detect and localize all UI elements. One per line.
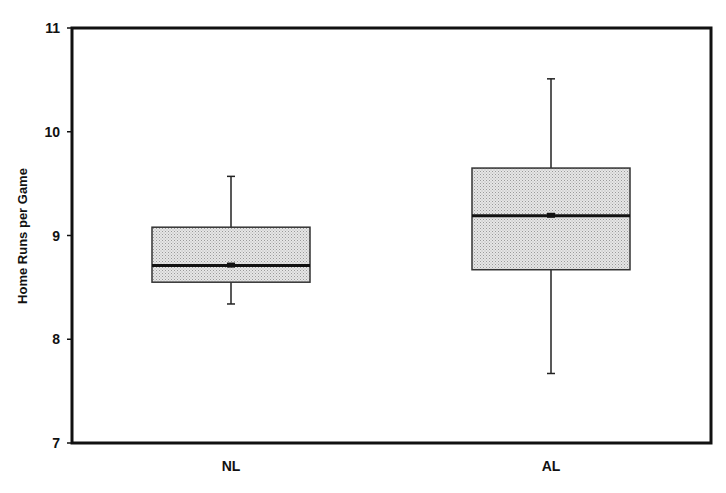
y-axis-label: Home Runs per Game (15, 168, 30, 304)
y-tick-label: 8 (52, 331, 60, 347)
y-tick-label: 11 (45, 20, 60, 36)
iqr-box (472, 168, 630, 270)
boxes (152, 79, 630, 374)
iqr-box (152, 227, 310, 282)
box-al (472, 79, 630, 374)
y-tick-label: 7 (52, 435, 60, 451)
x-tick-label: AL (542, 458, 561, 474)
y-tick-label: 9 (52, 228, 60, 244)
box-nl (152, 176, 310, 304)
box-plot-chart: 7891011 Home Runs per Game NLAL (0, 0, 726, 493)
y-axis: 7891011 (44, 20, 72, 451)
x-tick-label: NL (222, 458, 241, 474)
x-axis: NLAL (222, 458, 561, 474)
mean-marker (227, 263, 235, 268)
mean-marker (547, 213, 555, 218)
y-tick-label: 10 (44, 124, 60, 140)
